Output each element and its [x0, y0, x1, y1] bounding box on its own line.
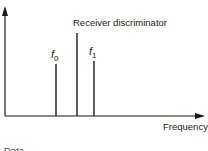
x-axis-label: Frequency	[163, 122, 208, 132]
f0-subscript: 0	[54, 54, 58, 63]
f1-label: f1	[89, 46, 97, 60]
discriminator-label: Receiver discriminator	[73, 18, 167, 28]
f1-subscript: 1	[92, 51, 96, 60]
cut-off-caption: Data	[4, 146, 24, 151]
y-axis-arrow-icon	[2, 6, 8, 16]
x-axis-arrow-icon	[195, 113, 205, 119]
f0-label: f0	[51, 49, 59, 63]
